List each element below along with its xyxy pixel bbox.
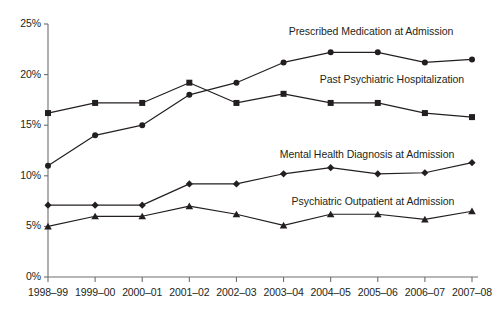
x-axis-tick-label: 1999–00	[69, 286, 121, 298]
data-point	[186, 92, 192, 98]
data-point	[468, 208, 476, 215]
series-label-1: Past Psychiatric Hospitalization	[320, 73, 464, 85]
x-axis-tick-label: 2007–08	[446, 286, 498, 298]
y-axis-tick-label: 25%	[20, 17, 41, 29]
data-point	[280, 170, 287, 177]
data-point	[45, 163, 51, 169]
x-axis-tick-label: 2003–04	[258, 286, 310, 298]
data-point	[233, 180, 240, 187]
x-axis-tick-label: 2006–07	[399, 286, 451, 298]
x-axis-tick-label: 2001–02	[163, 286, 215, 298]
data-point	[281, 59, 287, 65]
data-point	[92, 100, 98, 106]
data-point	[139, 100, 145, 106]
data-point	[422, 59, 428, 65]
data-point	[469, 114, 475, 120]
series-label-2: Mental Health Diagnosis at Admission	[280, 148, 454, 160]
line-chart: 0%5%10%15%20%25% 1998–991999–002000–0120…	[0, 0, 503, 315]
data-point	[233, 100, 239, 106]
y-axis-tick-label: 5%	[26, 219, 41, 231]
data-point	[469, 56, 475, 62]
data-point	[92, 132, 98, 138]
x-axis-tick-label: 2002–03	[210, 286, 262, 298]
data-point	[45, 110, 51, 116]
data-point	[374, 170, 381, 177]
data-point	[44, 202, 51, 209]
data-point	[186, 180, 193, 187]
data-point	[328, 49, 334, 55]
data-point	[281, 91, 287, 97]
series-square	[45, 80, 475, 120]
y-axis-tick-label: 15%	[20, 118, 41, 130]
y-axis-ticks	[44, 24, 48, 277]
x-axis-tick-label: 2000–01	[116, 286, 168, 298]
data-point	[92, 202, 99, 209]
y-axis-tick-label: 0%	[26, 270, 41, 282]
series-label-0: Prescribed Medication at Admission	[289, 25, 454, 37]
x-axis-tick-label: 1998–99	[22, 286, 74, 298]
series-label-3: Psychiatric Outpatient at Admission	[292, 195, 455, 207]
x-axis-ticks	[48, 277, 472, 282]
data-point	[422, 110, 428, 116]
data-point	[139, 202, 146, 209]
data-point	[328, 100, 334, 106]
data-point	[375, 100, 381, 106]
data-point	[375, 49, 381, 55]
x-axis-tick-label: 2005–06	[352, 286, 404, 298]
data-point	[186, 80, 192, 86]
data-point	[468, 159, 475, 166]
data-point	[421, 169, 428, 176]
data-point	[327, 164, 334, 171]
data-point	[233, 80, 239, 86]
data-point	[139, 122, 145, 128]
x-axis-tick-label: 2004–05	[305, 286, 357, 298]
data-point	[186, 203, 194, 210]
y-axis-tick-label: 10%	[20, 169, 41, 181]
y-axis-tick-label: 20%	[20, 68, 41, 80]
